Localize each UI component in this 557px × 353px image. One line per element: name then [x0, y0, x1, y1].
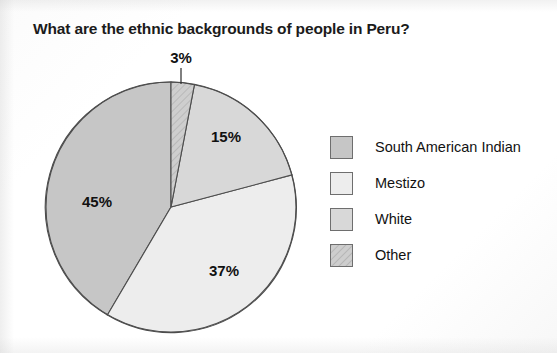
hatch-pattern-icon — [331, 245, 352, 266]
legend-swatch-mestizo — [330, 172, 353, 195]
legend-item-white[interactable]: White — [330, 203, 550, 235]
pie-label-mestizo: 37% — [209, 262, 239, 279]
legend-label-mestizo: Mestizo — [375, 175, 425, 191]
legend-label-south-american-indian: South American Indian — [375, 139, 521, 155]
pie-label-other: 3% — [170, 49, 192, 66]
legend-item-mestizo[interactable]: Mestizo — [330, 167, 550, 199]
legend-swatch-other — [330, 244, 353, 267]
legend-label-white: White — [375, 211, 412, 227]
legend: South American Indian Mestizo White Othe… — [330, 131, 550, 275]
chart-canvas: What are the ethnic backgrounds of peopl… — [0, 0, 557, 353]
pie-label-south-american-indian: 45% — [82, 193, 112, 210]
legend-swatch-white — [330, 208, 353, 231]
legend-label-other: Other — [375, 247, 411, 263]
legend-swatch-south-american-indian — [330, 136, 353, 159]
legend-item-other[interactable]: Other — [330, 239, 550, 271]
legend-item-south-american-indian[interactable]: South American Indian — [330, 131, 550, 163]
pie-label-white: 15% — [211, 128, 241, 145]
